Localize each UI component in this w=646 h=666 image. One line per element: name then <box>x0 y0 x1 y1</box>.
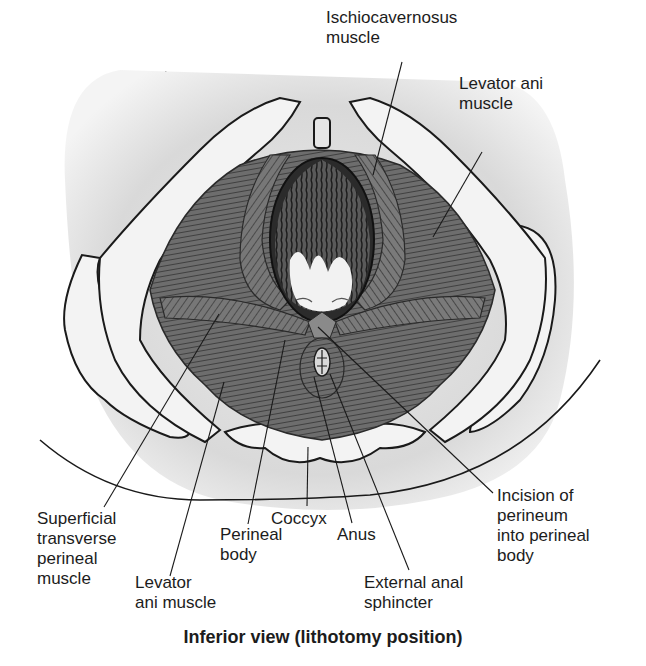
label-coccyx: Coccyx <box>271 509 327 529</box>
anus <box>314 348 330 376</box>
label-ischiocavernosus: Ischiocavernosus muscle <box>326 8 457 48</box>
label-superficial-transverse-perineal: Superficial transverse perineal muscle <box>37 509 116 589</box>
label-perineal-body: Perineal body <box>220 525 282 565</box>
label-incision-of-perineum: Incision of perineum into perineal body <box>497 486 590 566</box>
label-levator-ani-right: Levator ani muscle <box>459 74 543 114</box>
label-levator-ani-left: Levator ani muscle <box>135 573 216 613</box>
label-anus: Anus <box>337 525 376 545</box>
figure-caption: Inferior view (lithotomy position) <box>0 627 646 648</box>
label-external-anal-sphincter: External anal sphincter <box>364 573 463 613</box>
fetal-head <box>270 158 374 322</box>
